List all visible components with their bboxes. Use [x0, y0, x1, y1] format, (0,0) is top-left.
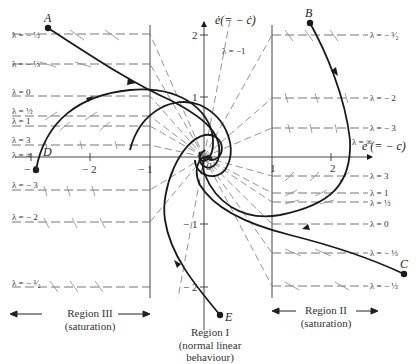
y-tick-2: 2 [192, 30, 198, 41]
right-isocline-label: λ = ½ [370, 199, 391, 208]
right-isocline-label: λ = 3 [370, 172, 388, 181]
y-tick-neg1: − 1 [183, 219, 197, 230]
x-tick-neg3: − 3 [24, 164, 38, 175]
right-isocline-label: λ = − ³⁄₂ [370, 31, 399, 40]
point-B-dot [307, 20, 313, 26]
region-II-title: Region II [295, 304, 357, 317]
point-A-label: A [44, 12, 51, 24]
y-axis-label: ė(= − ċ) [215, 14, 256, 26]
region-I-label: Region I (normal linear behaviour) [170, 326, 250, 364]
y-tick-neg2: − 2 [183, 282, 197, 293]
left-isocline-label: λ = ½ [12, 107, 33, 116]
left-isocline-label: λ = 3 [12, 136, 30, 145]
x-tick-neg1: − 1 [138, 164, 152, 175]
right-isocline-label: λ = − 3 [370, 124, 396, 133]
left-isocline-label: λ = − 3 [12, 181, 38, 190]
x-tick-neg2: − 2 [82, 164, 96, 175]
phase-plane-diagram: ė(= − ċ) e (= − c) 0 − 3 − 2 − 1 1 2 2 1… [0, 0, 419, 364]
x-tick-2: 2 [330, 163, 336, 174]
x-tick-1: 1 [270, 163, 276, 174]
right-isocline-label: λ = 1 [370, 189, 388, 198]
y-tick-1: 1 [192, 92, 198, 103]
left-isocline-label: λ = − ⅓ [12, 60, 40, 69]
region-III-title: Region III [55, 307, 125, 320]
point-A-dot [45, 25, 51, 31]
point-E-label: E [225, 311, 232, 323]
left-isocline-label: λ = 0 [12, 88, 30, 97]
region-III-subtitle: (saturation) [55, 320, 125, 333]
point-B-label: B [305, 7, 312, 19]
right-isocline-label: λ = − ½ [370, 282, 398, 291]
left-isocline-label: λ = − ³⁄₂ [12, 279, 41, 288]
region-II-label: Region II (saturation) [295, 304, 357, 329]
point-E-dot [217, 312, 223, 318]
left-isoclines [12, 34, 150, 287]
region-II-subtitle: (saturation) [295, 317, 357, 330]
left-isocline-label: λ = − ½ [12, 31, 40, 40]
region-I-title: Region I [170, 326, 250, 339]
region-I-subtitle-1: (normal linear [170, 339, 250, 352]
right-isoclines [272, 35, 368, 286]
right-isocline-label: λ = − ⅓ [370, 249, 398, 258]
left-isocline-label: λ = − 2 [12, 213, 38, 222]
right-isocline-label: λ = ∞ [352, 138, 372, 147]
left-isocline-label: λ = ∞ [12, 151, 32, 160]
origin-label: 0 [206, 161, 212, 172]
right-isocline-label: λ = 0 [370, 220, 388, 229]
center-isocline-label: λ = −1 [222, 47, 246, 56]
point-C-label: C [400, 258, 408, 270]
point-C-dot [401, 271, 407, 277]
region-I-subtitle-2: behaviour) [170, 351, 250, 364]
left-isocline-label: λ = 1 [12, 117, 30, 126]
right-isocline-label: λ = − 2 [370, 94, 396, 103]
region-III-label: Region III (saturation) [55, 307, 125, 332]
point-D-label: D [43, 146, 52, 158]
